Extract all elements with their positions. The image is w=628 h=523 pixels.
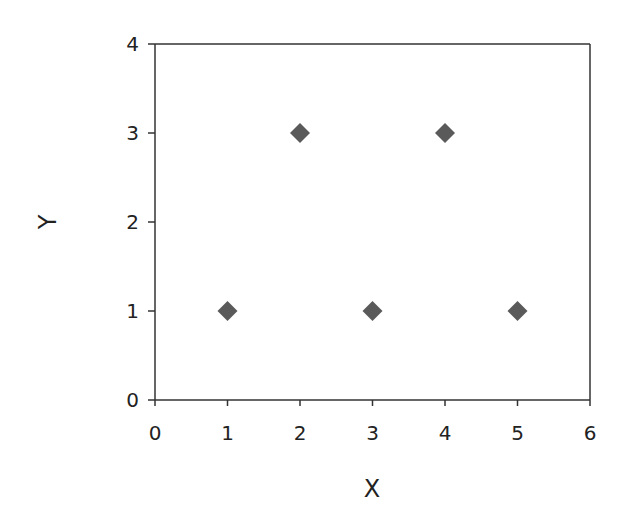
x-tick-label: 4	[439, 421, 452, 445]
y-tick-label: 0	[126, 388, 139, 412]
x-tick-label: 1	[221, 421, 234, 445]
x-tick-label: 0	[149, 421, 162, 445]
diamond-marker	[508, 301, 528, 321]
x-ticks: 0123456	[149, 400, 597, 445]
y-ticks: 01234	[126, 32, 155, 412]
x-tick-label: 2	[294, 421, 307, 445]
y-tick-label: 1	[126, 299, 139, 323]
y-tick-label: 4	[126, 32, 139, 56]
diamond-marker	[363, 301, 383, 321]
data-points	[218, 123, 528, 321]
y-tick-label: 2	[126, 210, 139, 234]
x-axis-label: X	[364, 475, 380, 503]
scatter-chart: 0123456 01234 X Y	[0, 0, 628, 523]
x-tick-label: 5	[511, 421, 524, 445]
diamond-marker	[290, 123, 310, 143]
diamond-marker	[435, 123, 455, 143]
x-tick-label: 3	[366, 421, 379, 445]
x-tick-label: 6	[584, 421, 597, 445]
diamond-marker	[218, 301, 238, 321]
plot-frame	[155, 44, 590, 400]
y-axis-label: Y	[34, 214, 62, 230]
y-tick-label: 3	[126, 121, 139, 145]
